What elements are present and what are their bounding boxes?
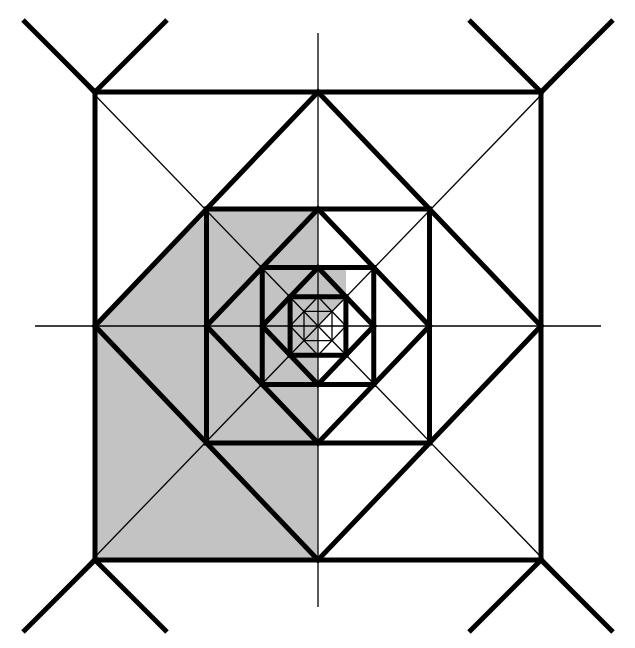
figure-root <box>0 0 635 648</box>
thin-line-layer <box>35 33 601 619</box>
geometric-diagram <box>0 0 635 648</box>
